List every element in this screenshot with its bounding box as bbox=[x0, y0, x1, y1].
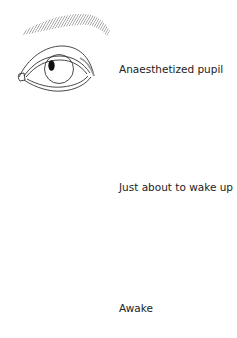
iris-1 bbox=[45, 55, 74, 84]
stage-1-label: Anaesthetized pupil bbox=[119, 63, 223, 75]
eye-1 bbox=[18, 46, 94, 91]
pupil-1 bbox=[48, 60, 54, 70]
stage-2-label: Just about to wake up bbox=[119, 181, 233, 193]
eyebrow-1 bbox=[22, 14, 110, 36]
upper-lid-1 bbox=[24, 56, 90, 76]
stage-3-label: Awake bbox=[119, 302, 153, 314]
lower-lid-1 bbox=[24, 77, 91, 91]
stage-1-group bbox=[18, 14, 110, 91]
upper-lid-inner-1 bbox=[26, 60, 87, 77]
lower-lid-inner-1 bbox=[27, 76, 88, 87]
pupil-stages-diagram bbox=[0, 0, 237, 338]
